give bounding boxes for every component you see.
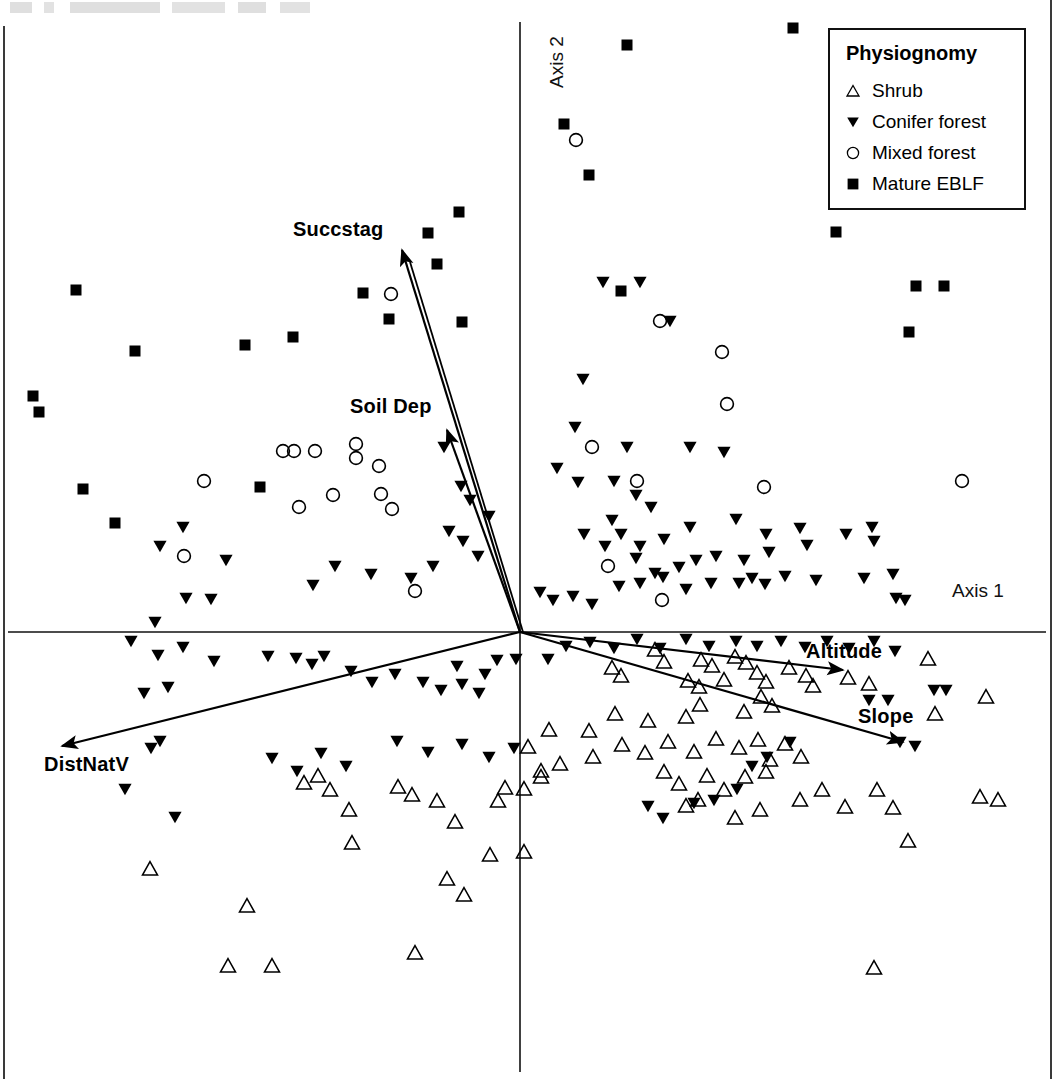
data-point-filled-triangle-down bbox=[550, 463, 563, 474]
axis-1-label: Axis 1 bbox=[952, 580, 1004, 602]
data-point-filled-triangle-down bbox=[629, 553, 642, 564]
data-point-open-triangle-up bbox=[792, 793, 807, 806]
data-point-open-triangle-up bbox=[920, 652, 935, 665]
data-point-filled-square bbox=[939, 281, 950, 292]
data-point-filled-triangle-down bbox=[783, 737, 796, 748]
data-point-filled-triangle-down bbox=[124, 636, 137, 647]
data-point-filled-square bbox=[616, 286, 627, 297]
data-point-open-triangle-up bbox=[727, 811, 742, 824]
data-point-filled-square bbox=[622, 40, 633, 51]
data-point-filled-square bbox=[240, 340, 251, 351]
data-point-filled-triangle-down bbox=[679, 634, 692, 645]
data-point-filled-triangle-down bbox=[541, 654, 554, 665]
data-point-open-triangle-up bbox=[660, 735, 675, 748]
data-point-filled-triangle-down bbox=[450, 661, 463, 672]
data-point-open-triangle-up bbox=[516, 845, 531, 858]
data-point-open-circle bbox=[586, 441, 599, 454]
data-point-open-circle bbox=[758, 481, 771, 494]
data-point-filled-triangle-down bbox=[774, 636, 787, 647]
data-point-open-circle bbox=[654, 315, 667, 328]
data-point-filled-triangle-down bbox=[176, 642, 189, 653]
data-point-open-triangle-up bbox=[614, 738, 629, 751]
data-point-filled-triangle-down bbox=[317, 651, 330, 662]
data-point-open-triangle-up bbox=[692, 698, 707, 711]
vector-label-altitude: Altitude bbox=[806, 640, 882, 663]
data-point-open-triangle-up bbox=[310, 769, 325, 782]
open-circle-icon bbox=[844, 144, 862, 162]
data-point-filled-triangle-down bbox=[290, 766, 303, 777]
data-point-open-circle bbox=[350, 438, 363, 451]
data-point-open-triangle-up bbox=[837, 800, 852, 813]
legend-label-mature-eblf: Mature EBLF bbox=[872, 173, 984, 195]
data-point-open-triangle-up bbox=[972, 790, 987, 803]
data-point-open-circle bbox=[602, 560, 615, 573]
data-point-filled-triangle-down bbox=[630, 634, 643, 645]
data-point-open-triangle-up bbox=[731, 741, 746, 754]
data-point-filled-triangle-down bbox=[672, 562, 685, 573]
data-point-open-circle bbox=[198, 475, 211, 488]
data-point-open-triangle-up bbox=[885, 801, 900, 814]
data-point-open-triangle-up bbox=[699, 769, 714, 782]
data-point-open-triangle-up bbox=[220, 959, 235, 972]
data-point-open-triangle-up bbox=[978, 690, 993, 703]
data-point-filled-triangle-down bbox=[471, 551, 484, 562]
data-point-open-triangle-up bbox=[404, 788, 419, 801]
data-point-filled-square bbox=[358, 288, 369, 299]
data-point-open-triangle-up bbox=[541, 723, 556, 736]
data-point-filled-triangle-down bbox=[533, 587, 546, 598]
data-point-filled-triangle-down bbox=[204, 594, 217, 605]
open-triangle-up-icon bbox=[844, 82, 862, 100]
data-point-filled-triangle-down bbox=[857, 573, 870, 584]
data-point-open-circle bbox=[293, 501, 306, 514]
data-point-filled-triangle-down bbox=[261, 651, 274, 662]
data-point-filled-triangle-down bbox=[416, 677, 429, 688]
data-point-open-triangle-up bbox=[429, 794, 444, 807]
legend-item-mature-eblf: Mature EBLF bbox=[844, 171, 984, 197]
data-point-filled-square bbox=[110, 518, 121, 529]
data-point-filled-triangle-down bbox=[456, 536, 469, 547]
data-point-open-circle bbox=[631, 475, 644, 488]
vector-label-slope: Slope bbox=[858, 705, 913, 728]
data-point-open-triangle-up bbox=[456, 888, 471, 901]
legend-label-mixed-forest: Mixed forest bbox=[872, 142, 975, 164]
data-point-filled-triangle-down bbox=[596, 277, 609, 288]
data-point-filled-triangle-down bbox=[641, 801, 654, 812]
data-point-filled-triangle-down bbox=[893, 737, 906, 748]
data-point-filled-triangle-down bbox=[750, 641, 763, 652]
data-point-open-triangle-up bbox=[497, 781, 512, 794]
vector-label-succstag: Succstag bbox=[293, 218, 384, 241]
data-point-filled-triangle-down bbox=[939, 685, 952, 696]
data-point-filled-square bbox=[911, 281, 922, 292]
data-point-filled-triangle-down bbox=[898, 595, 911, 606]
data-point-open-circle bbox=[373, 460, 386, 473]
vector-arrow-altitude bbox=[520, 632, 843, 670]
data-point-open-triangle-up bbox=[736, 705, 751, 718]
data-point-filled-triangle-down bbox=[314, 748, 327, 759]
data-point-filled-triangle-down bbox=[607, 476, 620, 487]
data-point-filled-triangle-down bbox=[760, 752, 773, 763]
data-point-filled-triangle-down bbox=[886, 569, 899, 580]
ordination-biplot-figure: Axis 1 Axis 2 Succstag Soil Dep Altitude… bbox=[0, 0, 1064, 1079]
data-point-open-triangle-up bbox=[900, 834, 915, 847]
data-point-filled-triangle-down bbox=[759, 529, 772, 540]
data-point-filled-triangle-down bbox=[888, 646, 901, 657]
data-point-filled-square bbox=[288, 332, 299, 343]
data-point-open-triangle-up bbox=[990, 793, 1005, 806]
data-point-filled-triangle-down bbox=[737, 555, 750, 566]
data-point-filled-triangle-down bbox=[151, 650, 164, 661]
data-point-filled-triangle-down bbox=[289, 653, 302, 664]
vector-label-soil-dep: Soil Dep bbox=[350, 395, 432, 418]
legend-label-shrub: Shrub bbox=[872, 80, 923, 102]
data-point-filled-triangle-down bbox=[437, 442, 450, 453]
data-point-filled-triangle-down bbox=[758, 579, 771, 590]
series-conifer-forest bbox=[118, 277, 952, 824]
data-point-filled-square bbox=[457, 317, 468, 328]
data-point-filled-triangle-down bbox=[612, 581, 625, 592]
data-point-filled-triangle-down bbox=[179, 593, 192, 604]
data-point-filled-triangle-down bbox=[717, 447, 730, 458]
data-point-filled-triangle-down bbox=[455, 679, 468, 690]
data-point-filled-triangle-down bbox=[839, 529, 852, 540]
data-point-open-triangle-up bbox=[439, 872, 454, 885]
data-point-filled-triangle-down bbox=[732, 578, 745, 589]
data-point-filled-triangle-down bbox=[614, 529, 627, 540]
